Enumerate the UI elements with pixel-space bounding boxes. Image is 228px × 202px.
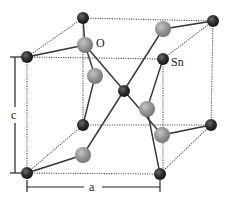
rutile-unit-cell-diagram: c a O Sn — [0, 0, 228, 202]
label-c: c — [11, 108, 16, 122]
sn-atom-front-bottom-left — [21, 167, 33, 179]
label-a: a — [89, 180, 95, 194]
sn-atom-back-bottom-left — [77, 119, 89, 131]
o-atom-upper-left — [87, 68, 103, 84]
label-oxygen: O — [96, 36, 105, 50]
sn-atom-front-bottom-right — [154, 168, 166, 180]
o-atom-bottom-left — [75, 147, 91, 163]
o-atom-lower-right — [154, 127, 170, 143]
label-tin: Sn — [171, 55, 184, 69]
sn-atom-back-top-right — [207, 15, 219, 27]
sn-atom-front-top-left — [21, 51, 33, 63]
sn-atom-center — [118, 85, 130, 97]
o-atom-mid-right — [139, 101, 155, 117]
sn-atom-back-bottom-right — [205, 119, 217, 131]
sn-atom-front-top-right — [157, 53, 169, 65]
o-atom-top — [77, 37, 93, 53]
o-atom-top-right — [155, 21, 171, 37]
sn-atom-back-top-left — [77, 12, 89, 24]
